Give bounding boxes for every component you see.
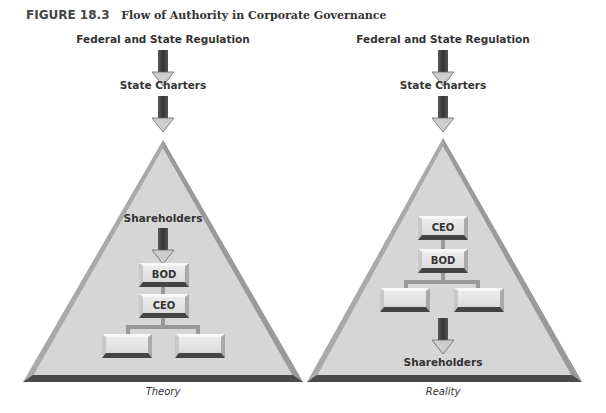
box-label-ceo: CEO — [432, 222, 455, 233]
reality-panel — [307, 50, 582, 382]
label-shareholders: Shareholders — [404, 356, 483, 368]
label-shareholders: Shareholders — [124, 212, 203, 224]
box-label-bod: BOD — [152, 269, 176, 280]
org-box — [454, 288, 504, 312]
org-box — [102, 334, 152, 358]
org-box — [380, 288, 430, 312]
label-state-charters: State Charters — [400, 79, 486, 91]
caption-reality: Reality — [426, 386, 461, 397]
box-label-bod: BOD — [431, 255, 455, 266]
label-state-charters: State Charters — [120, 79, 206, 91]
arrow-down-icon — [152, 96, 174, 132]
arrow-down-icon — [432, 96, 454, 132]
diagram-canvas — [0, 0, 606, 413]
label-federal-state-regulation: Federal and State Regulation — [356, 33, 529, 45]
org-box — [175, 334, 225, 358]
label-federal-state-regulation: Federal and State Regulation — [76, 33, 249, 45]
caption-theory: Theory — [146, 386, 181, 397]
box-label-ceo: CEO — [153, 300, 176, 311]
